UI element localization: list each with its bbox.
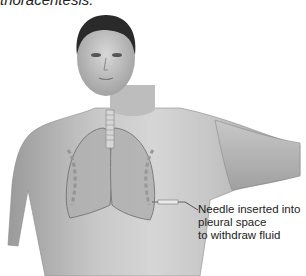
annotation-line-1: Needle inserted into xyxy=(198,203,300,216)
head xyxy=(77,15,136,96)
annotation-line-3: to withdraw fluid xyxy=(198,229,300,242)
annotation-line-2: pleural space xyxy=(198,216,300,229)
needle-annotation: Needle inserted into pleural space to wi… xyxy=(198,203,300,242)
